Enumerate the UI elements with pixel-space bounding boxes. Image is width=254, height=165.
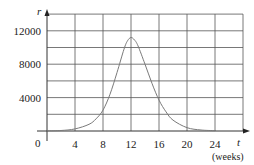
axes [37, 9, 250, 141]
x-axis-arrow-icon [243, 129, 250, 134]
chart: 48121620244000800012000 r t (weeks) 0 [0, 0, 254, 165]
x-tick-label: 16 [154, 138, 166, 150]
y-axis-arrow-icon [45, 9, 50, 16]
x-axis-unit: (weeks) [212, 151, 244, 163]
y-axis-label: r [37, 5, 42, 17]
x-tick-label: 24 [210, 138, 222, 150]
y-tick-label: 12000 [14, 25, 42, 37]
y-tick-label: 8000 [19, 58, 42, 70]
x-tick-label: 4 [72, 138, 78, 150]
x-tick-label: 8 [100, 138, 106, 150]
x-tick-label: 20 [182, 138, 194, 150]
y-tick-label: 4000 [19, 92, 42, 104]
x-axis-label: t [237, 136, 241, 148]
grid-lines [47, 14, 243, 131]
x-tick-label: 12 [126, 138, 137, 150]
origin-label: 0 [35, 137, 41, 149]
